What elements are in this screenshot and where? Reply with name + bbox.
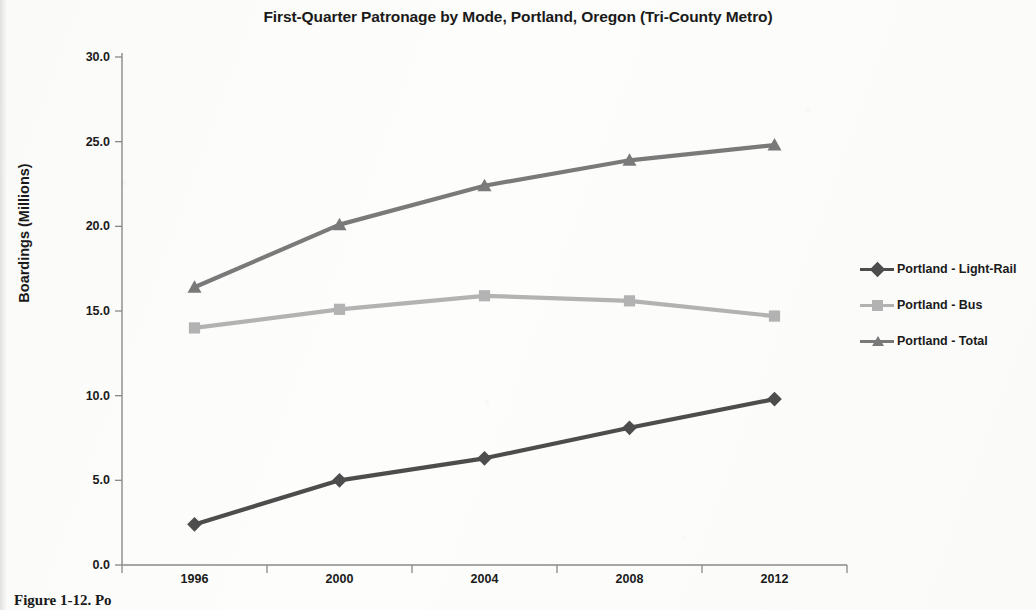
y-tick-label: 0.0 [54, 558, 110, 572]
x-tick-label: 2012 [715, 572, 835, 586]
y-tick-label: 10.0 [54, 389, 110, 403]
legend-label: Portland - Total [897, 334, 988, 348]
x-tick-label: 2000 [280, 572, 400, 586]
y-tick-label: 20.0 [54, 219, 110, 233]
legend-square-icon [860, 298, 894, 312]
legend-item[interactable]: Portland - Total [860, 334, 1016, 348]
figure-page: First-Quarter Patronage by Mode, Portlan… [0, 0, 1036, 610]
legend-diamond-icon [860, 262, 894, 276]
y-tick-label: 15.0 [54, 304, 110, 318]
series-square [189, 290, 780, 333]
figure-caption: Figure 1-12. Po [14, 592, 112, 609]
legend-label: Portland - Light-Rail [897, 262, 1016, 276]
chart-legend: Portland - Light-RailPortland - BusPortl… [860, 262, 1016, 348]
legend-item[interactable]: Portland - Light-Rail [860, 262, 1016, 276]
series-triangle [188, 138, 782, 293]
y-tick-label: 25.0 [54, 135, 110, 149]
x-tick-label: 1996 [135, 572, 255, 586]
legend-triangle-icon [860, 334, 894, 348]
legend-label: Portland - Bus [897, 298, 982, 312]
y-tick-label: 30.0 [54, 50, 110, 64]
x-tick-label: 2004 [425, 572, 545, 586]
legend-item[interactable]: Portland - Bus [860, 298, 1016, 312]
x-tick-label: 2008 [570, 572, 690, 586]
y-tick-label: 5.0 [54, 473, 110, 487]
series-diamond [187, 392, 782, 532]
